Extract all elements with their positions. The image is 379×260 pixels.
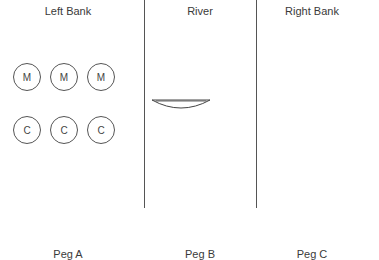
- cannibal-2[interactable]: C: [50, 116, 78, 144]
- peg-c-label: Peg C: [262, 248, 362, 260]
- header-river: River: [150, 5, 250, 17]
- boat-icon[interactable]: [150, 96, 212, 112]
- missionary-3[interactable]: M: [87, 63, 115, 91]
- cannibal-3[interactable]: C: [87, 116, 115, 144]
- header-left-bank: Left Bank: [18, 5, 118, 17]
- missionary-1[interactable]: M: [13, 63, 41, 91]
- peg-a-label: Peg A: [18, 248, 118, 260]
- peg-b-label: Peg B: [150, 248, 250, 260]
- header-right-bank: Right Bank: [262, 5, 362, 17]
- river-right-divider: [256, 0, 257, 208]
- cannibal-1[interactable]: C: [13, 116, 41, 144]
- river-left-divider: [144, 0, 145, 208]
- missionary-2[interactable]: M: [50, 63, 78, 91]
